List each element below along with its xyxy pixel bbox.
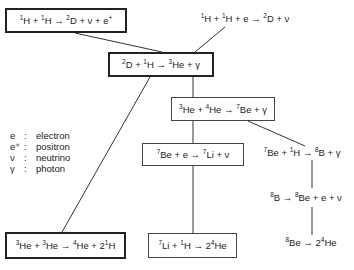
reaction-he3-he4: 3He + 4He → 7Be + γ <box>171 97 275 121</box>
legend: e : electron e⁺ : positron ν : neutrino … <box>10 130 70 174</box>
reaction-b8-decay: 8B → 8Be + e + ν <box>270 192 342 203</box>
reaction-he3-he3-text: 3He + 3He → 4He + 21H <box>16 240 116 251</box>
legend-separator: : <box>24 163 36 174</box>
legend-row-electron: e : electron <box>10 130 70 141</box>
connector-pp-to-d <box>75 33 162 52</box>
reaction-be7-p: 7Be + 1H → 8B + γ <box>264 147 341 158</box>
reaction-d-capture-text: 2D + 1H → 3He + γ <box>122 59 200 70</box>
legend-meaning: photon <box>36 163 65 174</box>
legend-separator: : <box>24 141 36 152</box>
legend-separator: : <box>24 152 36 163</box>
reaction-be7-p-text: 7Be + 1H → 8B + γ <box>264 147 341 158</box>
legend-separator: : <box>24 130 36 141</box>
legend-symbol: ν <box>10 152 24 163</box>
reaction-pp: 1H + 1H → 2D + ν + e+ <box>5 8 127 33</box>
legend-row-neutrino: ν : neutrino <box>10 152 70 163</box>
reaction-he3-he4-text: 3He + 4He → 7Be + γ <box>179 104 267 115</box>
legend-meaning: positron <box>36 141 70 152</box>
legend-row-photon: γ : photon <box>10 163 70 174</box>
legend-row-positron: e⁺ : positron <box>10 141 70 152</box>
reaction-be8-decay-text: 8Be → 24He <box>285 237 336 248</box>
reaction-pep: 1H + 1H + e → 2D + ν <box>201 13 290 24</box>
reaction-li7-p-text: 7Li + 1H → 24He <box>158 240 226 251</box>
reaction-be7-e-text: 7Be + e → 7Li + ν <box>157 149 230 160</box>
reaction-he3-he3: 3He + 3He → 4He + 21H <box>5 232 126 259</box>
reaction-b8-decay-text: 8B → 8Be + e + ν <box>270 192 342 203</box>
reaction-pep-text: 1H + 1H + e → 2D + ν <box>201 13 290 24</box>
legend-symbol: e⁺ <box>10 141 24 152</box>
legend-symbol: γ <box>10 163 24 174</box>
connector-pep-to-d <box>195 27 225 52</box>
reaction-be8-decay: 8Be → 24He <box>285 237 336 248</box>
legend-meaning: neutrino <box>36 152 70 163</box>
reaction-be7-e: 7Be + e → 7Li + ν <box>142 143 244 166</box>
reaction-d-capture: 2D + 1H → 3He + γ <box>108 52 214 77</box>
reaction-li7-p: 7Li + 1H → 24He <box>148 233 237 258</box>
pp-chain-diagram: 1H + 1H → 2D + ν + e+ 1H + 1H + e → 2D +… <box>0 0 354 270</box>
legend-meaning: electron <box>36 130 70 141</box>
connector-d-to-he3he3 <box>62 77 150 232</box>
reaction-pp-text: 1H + 1H → 2D + ν + e+ <box>20 15 113 26</box>
legend-symbol: e <box>10 130 24 141</box>
connector-he3he4-to-be7p <box>248 121 305 146</box>
